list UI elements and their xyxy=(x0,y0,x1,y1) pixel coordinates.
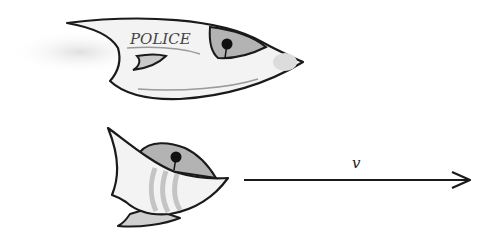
velocity-arrow: v xyxy=(244,154,470,188)
nose-patch xyxy=(273,53,297,71)
police-label: POLICE xyxy=(129,30,191,48)
striped-vehicle xyxy=(108,128,228,227)
velocity-label: v xyxy=(352,154,361,172)
diagram-canvas: POLICE v xyxy=(0,0,502,242)
